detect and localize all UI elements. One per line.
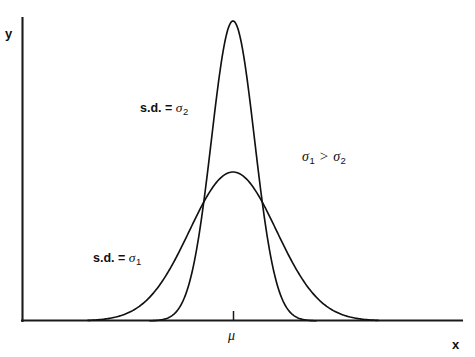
y-axis-label: y (5, 27, 12, 40)
inequality-operator: > (315, 148, 333, 164)
mean-axis-label: μ (228, 329, 235, 343)
sd-prefix-narrow: s.d. = (140, 101, 176, 115)
curve-sigma-2-narrow (150, 21, 316, 321)
axes-group (22, 18, 462, 321)
annotation-sigma-inequality: σ1>σ2 (302, 149, 346, 166)
inequality-left-subscript: 1 (309, 155, 315, 166)
annotation-sd-sigma-2: s.d. = σ2 (140, 101, 188, 117)
x-axis-label: x (452, 338, 459, 351)
inequality-right-subscript: 2 (340, 155, 346, 166)
inequality-left-symbol: σ (302, 149, 309, 164)
sd-prefix-wide: s.d. = (93, 251, 129, 265)
sigma-subscript-narrow: 2 (182, 106, 188, 117)
plot-canvas (0, 0, 475, 357)
curve-sigma-1-wide (88, 172, 378, 320)
normal-distribution-figure: y x s.d. = σ2 s.d. = σ1 σ1>σ2 μ (0, 0, 475, 357)
annotation-sd-sigma-1: s.d. = σ1 (93, 251, 141, 267)
sigma-subscript-wide: 1 (135, 256, 141, 267)
curves-group (88, 21, 378, 321)
